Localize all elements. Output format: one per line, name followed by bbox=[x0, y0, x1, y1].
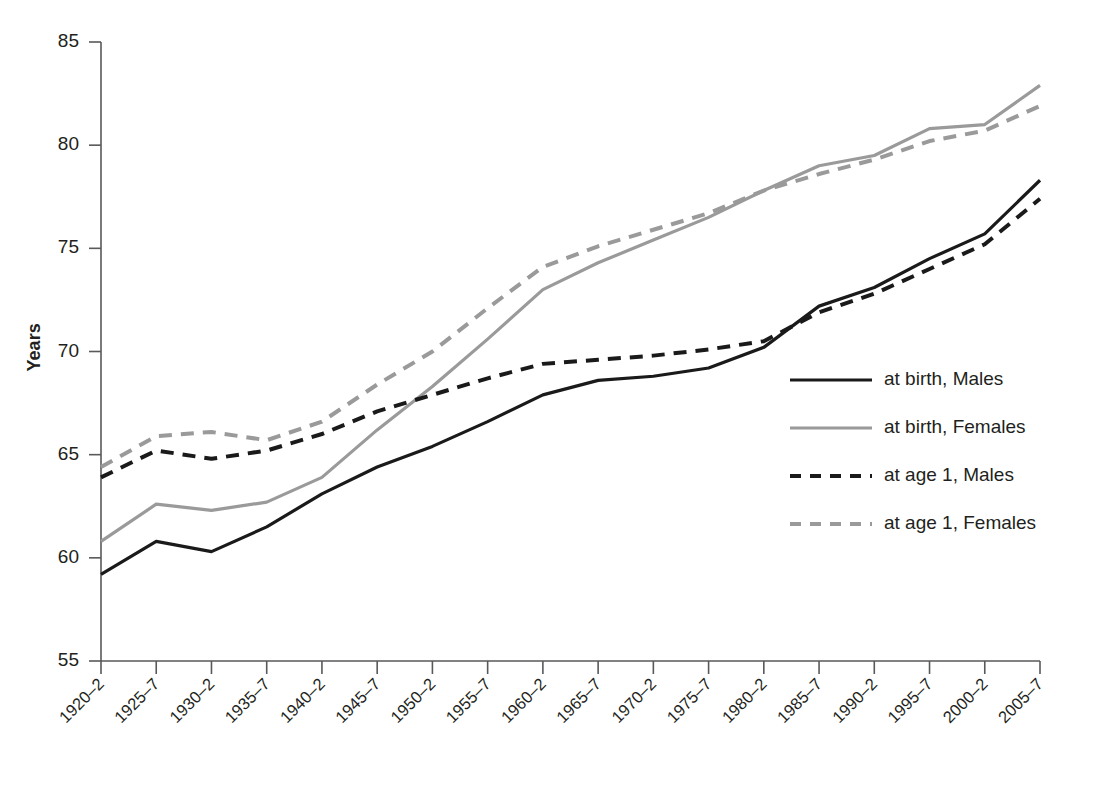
x-axis: 1920–21925–71930–21935–71940–21945–71950… bbox=[55, 661, 1046, 726]
y-tick-label: 65 bbox=[58, 443, 79, 464]
x-tick-label: 1930–2 bbox=[166, 674, 218, 726]
x-tick-label: 1925–7 bbox=[111, 674, 163, 726]
life-expectancy-chart: 55606570758085 1920–21925–71930–21935–71… bbox=[0, 0, 1100, 790]
y-tick-label: 85 bbox=[58, 30, 79, 51]
x-tick-label: 1995–7 bbox=[884, 674, 936, 726]
y-tick-label: 70 bbox=[58, 340, 79, 361]
y-axis-title: Years bbox=[24, 323, 44, 371]
x-tick-label: 1985–7 bbox=[774, 674, 826, 726]
x-tick-label: 1975–7 bbox=[663, 674, 715, 726]
x-tick-label: 1990–2 bbox=[829, 674, 881, 726]
x-tick-label: 1970–2 bbox=[608, 674, 660, 726]
x-tick-label: 1965–7 bbox=[553, 674, 605, 726]
legend-label-2: at age 1, Males bbox=[884, 464, 1014, 485]
series-lines bbox=[101, 85, 1040, 574]
x-tick-label: 1960–2 bbox=[497, 674, 549, 726]
legend-label-1: at birth, Females bbox=[884, 416, 1026, 437]
x-tick-label: 1955–7 bbox=[442, 674, 494, 726]
y-tick-label: 55 bbox=[58, 649, 79, 670]
y-tick-label: 80 bbox=[58, 133, 79, 154]
x-tick-label: 1945–7 bbox=[332, 674, 384, 726]
x-tick-label: 1950–2 bbox=[387, 674, 439, 726]
x-tick-label: 1980–2 bbox=[718, 674, 770, 726]
legend-label-0: at birth, Males bbox=[884, 368, 1003, 389]
chart-legend: at birth, Malesat birth, Femalesat age 1… bbox=[790, 368, 1036, 533]
x-tick-label: 1940–2 bbox=[276, 674, 328, 726]
x-tick-label: 1935–7 bbox=[221, 674, 273, 726]
y-tick-label: 60 bbox=[58, 546, 79, 567]
x-tick-label: 1920–2 bbox=[55, 674, 107, 726]
chart-canvas: 55606570758085 1920–21925–71930–21935–71… bbox=[0, 0, 1100, 790]
y-axis: 55606570758085 bbox=[58, 30, 101, 670]
y-tick-label: 75 bbox=[58, 236, 79, 257]
legend-label-3: at age 1, Females bbox=[884, 512, 1036, 533]
series-line-3 bbox=[101, 106, 1040, 467]
axis-titles: Years bbox=[24, 323, 44, 371]
x-tick-label: 2005–7 bbox=[994, 674, 1046, 726]
x-tick-label: 2000–2 bbox=[939, 674, 991, 726]
